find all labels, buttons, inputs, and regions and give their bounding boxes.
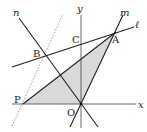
label-l: ℓ [135,19,139,30]
label-B: B [33,48,40,59]
diagram-canvas: y x n m ℓ A B C P O [0,0,147,132]
label-y: y [76,3,83,14]
label-C: C [72,34,80,45]
label-O: O [67,107,75,118]
origin-point [80,103,83,106]
label-n: n [13,7,19,18]
label-x: x [138,99,144,110]
label-A: A [111,34,120,45]
label-P: P [14,94,21,105]
label-m: m [120,7,129,18]
dashed-line [12,14,63,126]
